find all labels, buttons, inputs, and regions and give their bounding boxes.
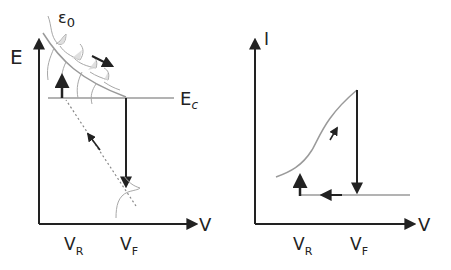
curve-direction-arrow — [330, 128, 337, 140]
left-plot: E V ε0 Ec VR VF — [10, 8, 212, 258]
right-vr-label: VR — [293, 234, 313, 258]
left-vf-label: VF — [120, 234, 138, 258]
left-y-axis-label: E — [10, 45, 23, 69]
left-vr-label: VR — [64, 234, 84, 258]
left-x-axis-label: V — [199, 214, 212, 235]
iv-curve — [276, 90, 357, 177]
ec-label: Ec — [180, 88, 198, 112]
epsilon-label: ε0 — [58, 8, 75, 30]
right-y-axis-label: I — [264, 29, 269, 49]
diagram-canvas: E V ε0 Ec VR VF I V VR — [0, 0, 451, 270]
right-x-axis-label: V — [418, 214, 431, 235]
return-arrow — [88, 134, 100, 150]
final-distribution-curve — [116, 176, 140, 218]
right-vf-label: VF — [350, 234, 368, 258]
right-plot: I V VR VF — [255, 29, 431, 258]
